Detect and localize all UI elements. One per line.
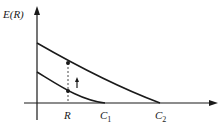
lower-point <box>66 89 70 93</box>
y-axis-arrowhead-icon <box>34 6 40 15</box>
diagram-canvas <box>0 0 221 128</box>
upper-point <box>66 61 70 65</box>
x-label-c1: C1 <box>100 110 111 124</box>
up-arrow-icon <box>75 77 79 82</box>
upper-curve <box>37 43 160 103</box>
lower-curve <box>37 72 105 103</box>
x-axis-arrowhead-icon <box>209 100 218 106</box>
y-axis-label: E(R) <box>3 9 24 20</box>
c1-subscript: 1 <box>107 115 111 124</box>
c2-subscript: 2 <box>162 115 166 124</box>
x-label-r: R <box>64 110 71 121</box>
x-label-c2: C2 <box>155 110 166 124</box>
